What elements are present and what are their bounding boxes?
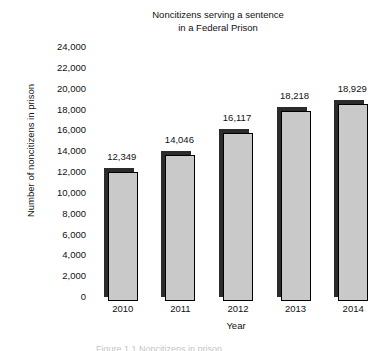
y-tick-label: 12,000: [28, 167, 86, 177]
y-tick-label: 20,000: [28, 84, 86, 94]
bar-face: [281, 111, 311, 301]
bar-value-label: 18,929: [321, 84, 383, 94]
y-tick-label: 2,000: [28, 271, 86, 281]
y-tick-label: 22,000: [28, 63, 86, 73]
bar-face: [223, 133, 253, 301]
bar-group: 18,218: [277, 47, 315, 297]
bar-value-label: 16,117: [206, 113, 268, 123]
x-tick-label: 2013: [269, 303, 323, 314]
bar-value-label: 18,218: [264, 91, 326, 101]
bar-group: 16,117: [219, 47, 257, 297]
bar-face: [165, 155, 195, 301]
x-axis-tick-labels: 20102011201220132014: [92, 303, 380, 317]
chart-title: Noncitizens serving a sentence in a Fede…: [96, 9, 340, 34]
x-axis-title: Year: [92, 320, 380, 331]
bar[interactable]: [219, 129, 257, 297]
x-tick-label: 2012: [211, 303, 265, 314]
y-tick-label: 6,000: [28, 230, 86, 240]
x-tick-label: 2010: [96, 303, 150, 314]
bar[interactable]: [104, 168, 142, 297]
chart-title-line-1: Noncitizens serving a sentence: [96, 9, 340, 22]
bar[interactable]: [277, 107, 315, 297]
y-tick-label: 16,000: [28, 125, 86, 135]
bar-face: [338, 104, 368, 301]
x-tick-label: 2014: [326, 303, 380, 314]
chart-figure: Noncitizens serving a sentence in a Fede…: [0, 0, 387, 351]
bar-group: 12,349: [104, 47, 142, 297]
y-tick-label: 14,000: [28, 146, 86, 156]
y-tick-label: 0: [28, 292, 86, 302]
bar-value-label: 12,349: [91, 152, 153, 162]
bar-group: 14,046: [161, 47, 199, 297]
bar[interactable]: [161, 151, 199, 297]
figure-caption: Figure 1.1 Noncitizens in prison: [96, 344, 316, 351]
y-tick-label: 10,000: [28, 188, 86, 198]
y-tick-label: 24,000: [28, 42, 86, 52]
bar-face: [108, 172, 138, 301]
y-tick-label: 4,000: [28, 250, 86, 260]
chart-title-line-2: in a Federal Prison: [96, 22, 340, 35]
y-axis-tick-labels: 24,00022,00020,00018,00016,00014,00012,0…: [28, 0, 86, 351]
bar-value-label: 14,046: [148, 135, 210, 145]
bar-group: 18,929: [334, 47, 372, 297]
bar[interactable]: [334, 100, 372, 297]
y-tick-label: 18,000: [28, 105, 86, 115]
plot-area: 12,34914,04616,11718,21818,929: [92, 47, 380, 297]
x-tick-label: 2011: [153, 303, 207, 314]
y-tick-label: 8,000: [28, 209, 86, 219]
